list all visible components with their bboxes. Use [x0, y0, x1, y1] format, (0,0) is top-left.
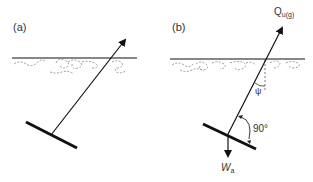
panel-a: (a): [12, 21, 137, 148]
anchor-rod: [51, 40, 125, 135]
soil-hatching: [172, 61, 299, 72]
right-angle-label: 90°: [253, 123, 268, 134]
weight-label: Wa: [221, 162, 234, 174]
anchor-plate: [203, 124, 256, 149]
anchor-plate: [26, 122, 77, 148]
soil-hatching: [14, 59, 126, 74]
anchor-diagram: (a) (b) ψ: [0, 0, 313, 182]
inclination-angle-label: ψ: [255, 86, 261, 96]
panel-b-label: (b): [172, 21, 185, 33]
panel-b: (b) ψ 90° Qu(g) Wa: [170, 6, 305, 174]
right-angle-arc: [241, 117, 250, 139]
panel-a-label: (a): [13, 21, 26, 33]
uplift-force-label: Qu(g): [274, 6, 294, 19]
anchor-rod: [228, 28, 282, 134]
